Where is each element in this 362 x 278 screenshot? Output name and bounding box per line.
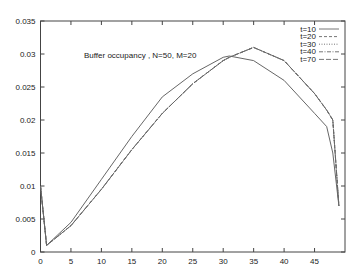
x-tick-label: 5 — [69, 257, 74, 266]
x-tick-label: 10 — [97, 257, 106, 266]
x-tick-label: 45 — [310, 257, 319, 266]
y-tick-label: 0.02 — [20, 116, 36, 125]
x-tick-label: 15 — [127, 257, 136, 266]
x-tick-label: 20 — [158, 257, 167, 266]
y-tick-label: 0.03 — [20, 50, 36, 59]
y-tick-label: 0.035 — [15, 17, 36, 26]
series-line-t-40 — [41, 47, 339, 245]
legend-label: t=70 — [300, 55, 316, 64]
y-tick-label: 0.025 — [15, 83, 36, 92]
chart: 05101520253035404500.0050.010.0150.020.0… — [0, 0, 362, 278]
legend: t=10t=20t=30t=40t=70 — [300, 25, 339, 64]
series-line-t-30 — [41, 47, 339, 245]
series-line-t-20 — [41, 47, 339, 245]
x-tick-label: 25 — [188, 257, 197, 266]
curves — [41, 47, 339, 245]
series-line-t-70 — [41, 47, 339, 245]
y-tick-label: 0.005 — [15, 215, 36, 224]
x-tick-label: 0 — [38, 257, 43, 266]
y-tick-label: 0 — [31, 248, 36, 257]
chart-title: Buffer occupancy , N=50, M=20 — [84, 51, 197, 60]
x-tick-label: 30 — [219, 257, 228, 266]
series-line-t-10 — [41, 56, 339, 245]
y-tick-label: 0.015 — [15, 149, 36, 158]
x-tick-label: 35 — [249, 257, 258, 266]
x-tick-label: 40 — [280, 257, 289, 266]
y-tick-label: 0.01 — [20, 182, 36, 191]
